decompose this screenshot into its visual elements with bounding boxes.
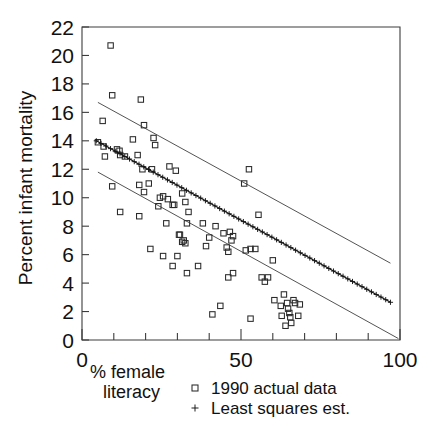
- fit-plus-marker: [260, 229, 265, 234]
- fit-plus-marker: [307, 255, 312, 260]
- chart-legend: 1990 actual data Least squares est.: [192, 379, 350, 418]
- data-point: [170, 202, 175, 207]
- fit-plus-marker: [174, 182, 179, 187]
- fit-plus-marker: [317, 261, 322, 266]
- fit-plus-marker: [340, 274, 345, 279]
- y-tick-label: 8: [62, 215, 74, 238]
- data-point: [117, 209, 122, 214]
- fit-plus-marker: [250, 224, 255, 229]
- fit-plus-marker: [388, 300, 393, 305]
- data-point: [137, 182, 142, 187]
- fit-plus-marker: [208, 201, 213, 206]
- fit-plus-marker: [374, 292, 379, 297]
- fit-plus-marker: [345, 276, 350, 281]
- chart-figure: 0246810121416182022 050100 Percent infan…: [0, 0, 432, 436]
- data-point: [213, 223, 218, 228]
- legend-label-least-squares: Least squares est.: [211, 399, 350, 418]
- fit-plus-marker: [165, 177, 170, 182]
- data-point: [296, 313, 301, 318]
- data-point: [110, 93, 115, 98]
- y-tick-label: 12: [51, 158, 74, 181]
- data-point: [278, 303, 283, 308]
- data-point: [141, 189, 146, 194]
- fit-plus-marker: [321, 263, 326, 268]
- scatter-plot-svg: 0246810121416182022 050100 Percent infan…: [0, 0, 432, 436]
- data-point: [200, 221, 205, 226]
- data-point: [218, 303, 223, 308]
- data-point: [108, 43, 113, 48]
- y-tick-label: 20: [51, 44, 74, 67]
- fit-plus-marker: [231, 214, 236, 219]
- data-point: [102, 154, 107, 159]
- confidence-band-lower: [98, 172, 399, 338]
- data-point: [173, 168, 178, 173]
- fit-plus-marker: [298, 250, 303, 255]
- least-squares-fit-line: [94, 138, 393, 305]
- fit-plus-marker: [203, 198, 208, 203]
- x-axis-title-line2: literacy: [103, 382, 160, 402]
- y-tick-label: 0: [62, 329, 74, 352]
- fit-plus-marker: [236, 216, 241, 221]
- fit-plus-marker: [179, 185, 184, 190]
- fit-plus-marker: [364, 287, 369, 292]
- fit-plus-marker: [222, 209, 227, 214]
- data-point: [248, 316, 253, 321]
- y-tick-label: 10: [51, 186, 74, 209]
- data-point: [281, 292, 286, 297]
- data-point: [284, 300, 289, 305]
- fit-plus-marker: [146, 167, 151, 172]
- y-tick-label: 4: [62, 272, 74, 295]
- data-point: [279, 313, 284, 318]
- y-axis-tick-labels: 0246810121416182022: [51, 16, 75, 352]
- data-point: [203, 243, 208, 248]
- fit-plus-marker: [265, 232, 270, 237]
- y-axis-ticks: [82, 27, 89, 340]
- data-point: [130, 137, 135, 142]
- x-tick-label: 50: [229, 348, 252, 371]
- data-point: [137, 214, 142, 219]
- data-point: [210, 312, 215, 317]
- fit-plus-marker: [350, 279, 355, 284]
- fit-plus-marker: [359, 284, 364, 289]
- fit-plus-marker: [198, 196, 203, 201]
- legend-plus-icon: [192, 405, 199, 412]
- fit-plus-marker: [108, 146, 113, 151]
- data-point: [270, 258, 275, 263]
- data-point: [221, 231, 226, 236]
- data-point: [110, 184, 115, 189]
- fit-plus-marker: [217, 206, 222, 211]
- y-tick-label: 14: [51, 129, 75, 152]
- data-point: [179, 191, 184, 196]
- y-tick-label: 16: [51, 101, 74, 124]
- fit-plus-marker: [227, 211, 232, 216]
- fit-plus-marker: [255, 227, 260, 232]
- fit-plus-marker: [369, 289, 374, 294]
- data-point: [151, 135, 156, 140]
- fit-plus-marker: [331, 268, 336, 273]
- data-point: [135, 152, 140, 157]
- fit-plus-marker: [326, 266, 331, 271]
- fit-plus-marker: [293, 248, 298, 253]
- y-axis-title: Percent infant mortality: [15, 90, 36, 285]
- data-point: [138, 97, 143, 102]
- fit-plus-marker: [155, 172, 160, 177]
- data-point: [283, 323, 288, 328]
- fit-plus-marker: [378, 294, 383, 299]
- legend-label-actual-data: 1990 actual data: [211, 379, 337, 398]
- data-point-markers: [95, 43, 302, 329]
- y-tick-label: 18: [51, 72, 74, 95]
- confidence-band-lines: [98, 102, 399, 338]
- y-tick-label: 2: [62, 300, 74, 323]
- fit-plus-marker: [241, 219, 246, 224]
- fit-plus-marker: [383, 297, 388, 302]
- x-tick-label: 0: [76, 348, 88, 371]
- data-point: [175, 253, 180, 258]
- fit-plus-marker: [283, 242, 288, 247]
- fit-plus-marker: [189, 190, 194, 195]
- fit-plus-marker: [302, 253, 307, 258]
- fit-plus-marker: [246, 222, 251, 227]
- data-point: [183, 199, 188, 204]
- data-point: [186, 209, 191, 214]
- data-point: [164, 221, 169, 226]
- data-point: [289, 320, 294, 325]
